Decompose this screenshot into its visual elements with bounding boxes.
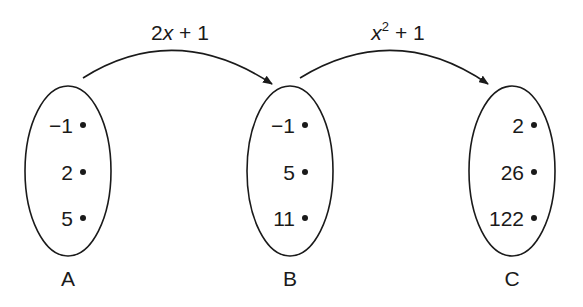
dot-b-3 bbox=[302, 215, 308, 221]
dot-b-1 bbox=[302, 122, 308, 128]
arrow-a-to-b bbox=[83, 50, 272, 84]
dot-a-1 bbox=[80, 122, 86, 128]
set-b-label: B bbox=[270, 268, 310, 289]
arrow-b-to-c bbox=[300, 50, 488, 84]
set-a-value: −1 bbox=[13, 115, 73, 136]
constant-term: + 1 bbox=[173, 21, 209, 44]
function-label-x-squared-plus-1: x2 + 1 bbox=[338, 22, 458, 43]
set-b-value: 11 bbox=[235, 208, 295, 229]
dot-a-3 bbox=[80, 215, 86, 221]
set-c-value: 26 bbox=[464, 162, 524, 183]
diagram-canvas bbox=[0, 0, 583, 307]
variable-x: x bbox=[371, 21, 382, 44]
set-a-value: 5 bbox=[13, 208, 73, 229]
variable-x: x bbox=[163, 21, 174, 44]
set-b-value: −1 bbox=[235, 115, 295, 136]
dot-a-2 bbox=[80, 169, 86, 175]
set-b-value: 5 bbox=[235, 162, 295, 183]
set-c-label: C bbox=[492, 268, 532, 289]
set-a-label: A bbox=[48, 268, 88, 289]
set-a-value: 2 bbox=[13, 162, 73, 183]
dot-c-2 bbox=[531, 169, 537, 175]
dot-b-2 bbox=[302, 169, 308, 175]
dot-c-1 bbox=[531, 122, 537, 128]
exponent: 2 bbox=[382, 19, 389, 34]
set-c-value: 122 bbox=[464, 208, 524, 229]
function-label-2x-plus-1: 2x + 1 bbox=[120, 22, 240, 43]
set-c-value: 2 bbox=[464, 115, 524, 136]
dot-c-3 bbox=[531, 215, 537, 221]
constant-term: + 1 bbox=[389, 21, 425, 44]
coefficient: 2 bbox=[151, 21, 163, 44]
